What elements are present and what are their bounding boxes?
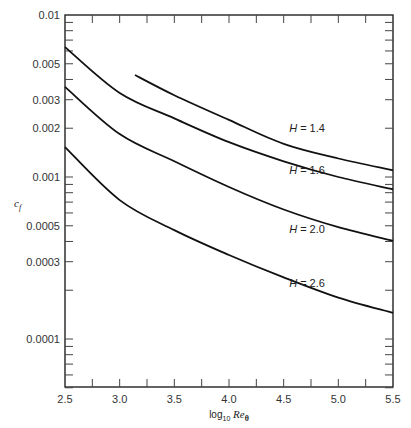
curve-label: H = 2.6	[289, 277, 325, 289]
x-tick-label: 4.0	[221, 393, 236, 405]
curve-label: H = 1.6	[289, 164, 325, 176]
x-tick-label: 4.5	[276, 393, 291, 405]
x-tick-label: 3.5	[167, 393, 182, 405]
x-tick-label: 5.5	[385, 393, 400, 405]
x-axis-title: log10 Reθ	[209, 408, 249, 423]
plot-border	[65, 15, 393, 387]
curve-label: H = 2.0	[289, 223, 325, 235]
y-tick-label: 0.002	[32, 122, 60, 134]
curve-h-1-6	[65, 47, 393, 189]
curves	[65, 47, 393, 313]
curve-h-2-6	[65, 147, 393, 313]
x-tick-label: 3.0	[112, 393, 127, 405]
axis-ticks: 2.53.03.54.04.55.05.50.010.0050.0030.002…	[26, 9, 400, 405]
curve-h-1-4	[135, 75, 393, 170]
y-tick-label: 0.001	[32, 171, 60, 183]
plot-frame	[65, 15, 393, 387]
y-tick-label: 0.0003	[26, 256, 60, 268]
curve-label: H = 1.4	[289, 122, 325, 134]
x-tick-label: 5.0	[331, 393, 346, 405]
cf-vs-reynolds-chart: 2.53.03.54.04.55.05.50.010.0050.0030.002…	[0, 0, 411, 428]
y-tick-label: 0.0005	[26, 220, 60, 232]
y-axis-title: cf	[14, 197, 23, 212]
y-tick-label: 0.01	[39, 9, 60, 21]
y-tick-label: 0.003	[32, 94, 60, 106]
y-tick-label: 0.0001	[26, 333, 60, 345]
x-tick-label: 2.5	[57, 393, 72, 405]
curve-h-2-0	[65, 87, 393, 241]
y-tick-label: 0.005	[32, 58, 60, 70]
